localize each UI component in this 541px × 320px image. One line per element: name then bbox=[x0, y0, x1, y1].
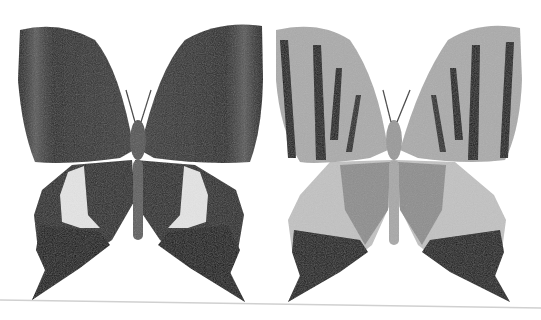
ventral-specimen bbox=[276, 26, 522, 302]
butterfly-photo bbox=[0, 0, 541, 320]
dorsal-specimen bbox=[18, 25, 263, 302]
